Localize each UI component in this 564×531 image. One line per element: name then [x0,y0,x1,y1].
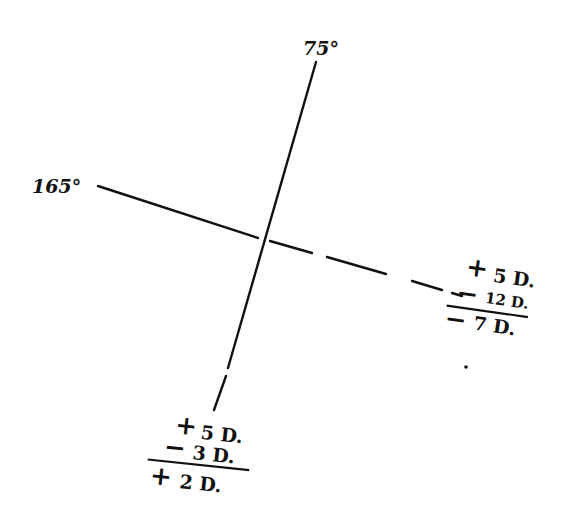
label-75-degrees: 75° [303,37,339,59]
stray-dot [464,365,468,369]
horizontal-axis-165 [98,186,462,296]
vertical-axis-75 [214,62,316,410]
bottom-line2-sign: − [163,431,188,463]
right-result-value: 7 D. [472,312,517,340]
right-fraction: + 5 D. − 12 D. − 7 D. [443,249,538,344]
bottom-result-sign: + [149,460,174,492]
right-line1-value: 5 D. [492,264,537,292]
right-line2-value: 12 D. [484,289,530,313]
bottom-fraction: + 5 D. − 3 D. + 2 D. [145,407,255,500]
bottom-result-value: 2 D. [178,470,222,496]
bottom-line2-value: 3 D. [192,441,236,467]
label-165-degrees: 165° [32,175,81,197]
optics-cross-diagram: 75° 165° + 5 D. − 12 D. − 7 D. + 5 D. − … [0,0,564,531]
right-result-sign: − [443,303,469,336]
